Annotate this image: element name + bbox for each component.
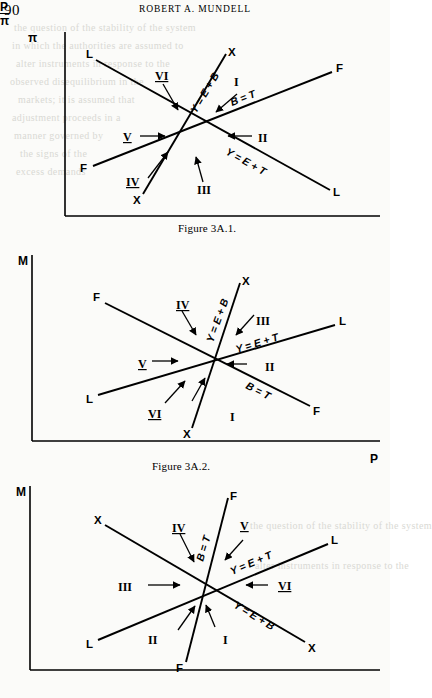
- region-label-III: III: [197, 183, 211, 197]
- line-end-label-X: X: [133, 194, 141, 206]
- line-FF-figure-3: [186, 498, 228, 662]
- region-label-IV: IV: [176, 298, 190, 312]
- region-label-IV: IV: [126, 175, 140, 189]
- region-label-VI: VI: [148, 407, 162, 421]
- equation-label-Y-E-B: Y = E + B: [187, 70, 221, 115]
- line-end-label-F: F: [93, 291, 100, 303]
- region-label-V: V: [138, 357, 147, 371]
- equation-label-Y-E-B: Y = E + B: [204, 297, 231, 344]
- equation-label-B-T: B = T: [244, 379, 274, 402]
- region-label-I: I: [234, 75, 239, 89]
- region-label-V: V: [240, 519, 249, 533]
- line-end-label-L: L: [339, 315, 346, 327]
- equation-label-Y-E-T: Y = E + T: [234, 330, 281, 355]
- line-end-label-F: F: [336, 62, 343, 74]
- region-label-VI: VI: [278, 579, 292, 593]
- line-end-label-L: L: [86, 393, 93, 405]
- region-label-VI: VI: [155, 69, 169, 83]
- y-axis-label-figure-3: M: [16, 485, 26, 499]
- equation-label-B-T: B = T: [193, 533, 213, 563]
- region-label-III: III: [118, 580, 132, 594]
- line-end-label-L: L: [86, 638, 93, 650]
- line-end-label-L: L: [86, 48, 93, 60]
- x-axis-label-figure-2: P: [370, 452, 378, 466]
- figure-3a-3: M X X L L F F B = T Y = E + T Y = E + B …: [0, 472, 390, 687]
- line-end-label-X: X: [94, 514, 102, 526]
- equation-label-Y-E-B: Y = E + B: [232, 598, 277, 632]
- running-head: ROBERT A. MUNDELL: [0, 4, 390, 14]
- region-label-V: V: [123, 130, 132, 144]
- region-arrows-figure-2: [152, 311, 254, 403]
- line-end-label-L: L: [331, 534, 338, 546]
- region-label-III: III: [256, 314, 270, 328]
- line-end-label-X: X: [183, 428, 191, 440]
- region-label-II: II: [148, 633, 158, 647]
- equation-label-Y-E-T: Y = E + T: [224, 145, 270, 178]
- axes-figure-2: [32, 255, 380, 441]
- line-end-label-L: L: [333, 186, 340, 198]
- figure-3a-1: π L L F F X X Y = E + B B = T Y = E + T …: [0, 14, 390, 232]
- figure-3a-2: M F F L L X X Y = E + B Y = E + T B = T …: [0, 243, 390, 458]
- line-end-label-X: X: [308, 642, 316, 654]
- equation-label-Y-E-T: Y = E + T: [228, 548, 275, 577]
- caption-figure-3a-2: Figure 3A.2.: [152, 460, 210, 472]
- line-end-label-F: F: [230, 490, 237, 502]
- line-end-label-X: X: [228, 46, 236, 58]
- region-label-I: I: [223, 633, 228, 647]
- region-label-I: I: [230, 410, 235, 424]
- region-label-IV: IV: [172, 521, 186, 535]
- line-end-label-F: F: [176, 662, 183, 674]
- region-label-II: II: [258, 131, 268, 145]
- line-end-label-F: F: [80, 162, 87, 174]
- region-label-II: II: [265, 360, 275, 374]
- y-axis-label-figure-1: π: [28, 31, 37, 45]
- line-FF-figure-2: [105, 303, 310, 406]
- line-end-label-X: X: [242, 275, 250, 287]
- caption-figure-3a-1: Figure 3A.1.: [178, 222, 236, 234]
- line-end-label-F: F: [313, 405, 320, 417]
- equation-label-B-T: B = T: [228, 87, 258, 108]
- y-axis-label-figure-2: M: [18, 254, 28, 268]
- axes-figure-3: [30, 486, 380, 670]
